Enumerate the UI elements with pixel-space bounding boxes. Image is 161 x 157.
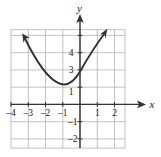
graph-figure: –4 –3 –2 –1 1 2 4 3 1 –1 –2 y x: [0, 0, 161, 157]
x-tick-label-1: 1: [95, 108, 100, 118]
x-tick-label-2: 2: [112, 108, 117, 118]
x-tick-label-neg3: –3: [23, 108, 34, 118]
x-tick-label-neg1: –1: [57, 108, 68, 118]
y-tick-label-neg1: –1: [67, 117, 78, 127]
coordinate-plane-svg: –4 –3 –2 –1 1 2 4 3 1 –1 –2 y x: [0, 0, 161, 157]
x-axis-label: x: [149, 98, 155, 110]
parabola-curve: [25, 34, 105, 85]
y-tick-label-4: 4: [69, 48, 74, 58]
tick-labels: –4 –3 –2 –1 1 2 4 3 1 –1 –2: [5, 48, 117, 144]
axis-names: y x: [76, 2, 155, 110]
x-tick-label-neg2: –2: [40, 108, 51, 118]
x-tick-label-neg4: –4: [5, 108, 16, 118]
y-tick-label-neg2: –2: [67, 134, 78, 144]
y-tick-label-3: 3: [69, 65, 74, 75]
axes: [11, 14, 146, 148]
parabola-curve-group: [22, 29, 107, 85]
y-axis-label: y: [76, 2, 82, 14]
y-tick-label-1: 1: [69, 87, 74, 97]
